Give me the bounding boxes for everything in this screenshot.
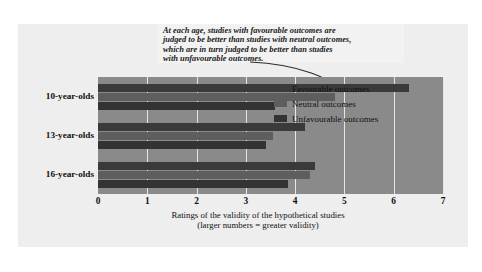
tick-label: 5: [342, 196, 347, 206]
legend-item[interactable]: Favourable outcomes: [274, 82, 404, 95]
legend-swatch: [274, 100, 287, 107]
tick-label: 4: [293, 196, 298, 206]
bar: [98, 162, 315, 170]
legend-item[interactable]: Neutral outcomes: [274, 97, 404, 110]
x-axis-ticks: 01234567: [98, 196, 443, 209]
tick-label: 1: [145, 196, 150, 206]
x-axis-caption-line1: Ratings of the validity of the hypotheti…: [58, 210, 458, 220]
legend-item[interactable]: Unfavourable outcomes: [274, 112, 404, 125]
figure-panel: At each age, studies with favourable out…: [18, 24, 468, 247]
bar: [98, 171, 310, 179]
category-label: 16-year-olds: [46, 169, 94, 179]
bar-group: [98, 155, 443, 194]
bar: [98, 141, 266, 149]
tick-label: 2: [194, 196, 199, 206]
annotation-callout: At each age, studies with favourable out…: [157, 24, 404, 63]
tick-label: 0: [96, 196, 101, 206]
tick-label: 3: [244, 196, 249, 206]
category-label: 13-year-olds: [46, 130, 94, 140]
legend-swatch: [274, 85, 287, 92]
chart-legend: Favourable outcomesNeutral outcomesUnfav…: [274, 82, 404, 127]
legend-label: Unfavourable outcomes: [292, 114, 378, 124]
bar: [98, 180, 288, 188]
x-axis-caption: Ratings of the validity of the hypotheti…: [58, 210, 458, 231]
annotation-text: At each age, studies with favourable out…: [163, 26, 400, 63]
tick-label: 7: [441, 196, 446, 206]
category-axis-labels: 10-year-olds13-year-olds16-year-olds: [28, 77, 94, 194]
bar: [98, 132, 273, 140]
legend-label: Neutral outcomes: [292, 99, 356, 109]
legend-swatch: [274, 115, 287, 122]
x-axis-caption-line2: (larger numbers = greater validity): [58, 220, 458, 230]
category-label: 10-year-olds: [46, 91, 94, 101]
bar: [98, 102, 275, 110]
tick-label: 6: [391, 196, 396, 206]
gridline: [443, 77, 444, 194]
legend-label: Favourable outcomes: [292, 84, 369, 94]
